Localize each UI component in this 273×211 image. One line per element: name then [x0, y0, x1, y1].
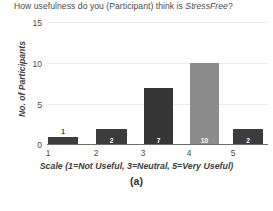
plot-area: 1 2 7 10 2 — [47, 22, 268, 145]
gridline-15 — [47, 22, 268, 23]
x-tick-1: 1 — [28, 148, 68, 158]
chart-title-suffix: ? — [228, 1, 233, 11]
y-tick-10: 10 — [0, 59, 42, 69]
y-tick-15: 15 — [0, 18, 42, 28]
bar-chart-figure: How usefulness do you (Participant) thin… — [0, 0, 273, 211]
bar-value-label-4: 10 — [190, 137, 219, 144]
bar-category-5[interactable]: 2 — [233, 129, 263, 145]
bar-value-label-3: 7 — [144, 137, 173, 144]
bar-category-2[interactable]: 2 — [96, 129, 127, 145]
bar-value-label-5: 2 — [233, 137, 263, 144]
x-tick-3: 3 — [123, 148, 163, 158]
x-tick-5: 5 — [213, 148, 253, 158]
y-tick-5: 5 — [0, 100, 42, 110]
x-axis-line — [47, 144, 268, 145]
chart-title: How usefulness do you (Participant) thin… — [14, 1, 233, 12]
x-tick-2: 2 — [76, 148, 116, 158]
bar-category-4[interactable]: 10 — [190, 63, 219, 145]
bar-value-label-2: 2 — [96, 137, 127, 144]
bar-value-label-1: 1 — [48, 128, 78, 135]
x-axis-label: Scale (1=Not Useful, 3=Neutral, 5=Very U… — [0, 161, 273, 171]
gridline-10 — [47, 63, 268, 64]
chart-title-prefix: How usefulness do you (Participant) thin… — [14, 1, 185, 11]
x-tick-4: 4 — [169, 148, 209, 158]
bar-category-3[interactable]: 7 — [144, 88, 173, 145]
y-axis-label: No. of Participants — [17, 26, 27, 132]
chart-title-emphasis: StressFree — [185, 1, 228, 11]
figure-caption: (a) — [0, 175, 273, 187]
